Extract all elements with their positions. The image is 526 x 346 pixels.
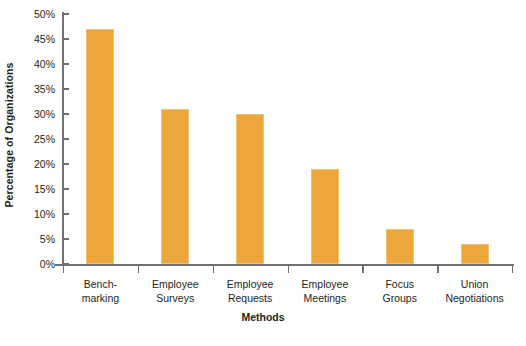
y-axis-tick-label: 20% xyxy=(21,158,55,170)
bar xyxy=(161,109,189,264)
x-axis-category-label: EmployeeSurveys xyxy=(138,278,213,305)
x-axis-category-label-line: Bench- xyxy=(63,278,138,292)
y-axis-tick-label: 15% xyxy=(21,183,55,195)
x-axis-tick-mark xyxy=(213,266,214,273)
bar xyxy=(236,114,264,264)
y-axis-title: Percentage of Organizations xyxy=(0,0,18,270)
y-axis-tick-label: 40% xyxy=(21,58,55,70)
x-axis-ticks xyxy=(0,266,526,275)
plot-area xyxy=(63,14,512,264)
x-axis-category-label: UnionNegotiations xyxy=(437,278,512,305)
x-axis-category-label: EmployeeMeetings xyxy=(288,278,363,305)
x-axis-category-label-line: Negotiations xyxy=(437,292,512,306)
x-axis-category-label-line: Surveys xyxy=(138,292,213,306)
x-axis-category-label-line: Union xyxy=(437,278,512,292)
bar xyxy=(311,169,339,264)
x-axis-tick-mark xyxy=(362,266,363,273)
x-axis-category-label-line: Meetings xyxy=(288,292,363,306)
x-axis-category-label-line: Requests xyxy=(213,292,288,306)
y-axis-tick-label: 45% xyxy=(21,33,55,45)
x-axis-category-labels: Bench-markingEmployeeSurveysEmployeeRequ… xyxy=(0,278,526,314)
x-axis-category-label-line: marking xyxy=(63,292,138,306)
x-axis-tick-mark xyxy=(437,266,438,273)
y-axis-tick-label: 30% xyxy=(21,108,55,120)
y-axis-tick-label: 10% xyxy=(21,208,55,220)
x-axis-category-label-line: Focus xyxy=(362,278,437,292)
bar-chart: Percentage of Organizations 0%5%10%15%20… xyxy=(0,0,526,346)
x-axis-category-label: FocusGroups xyxy=(362,278,437,305)
x-axis-category-label-line: Employee xyxy=(138,278,213,292)
x-axis-category-label-line: Groups xyxy=(362,292,437,306)
x-axis-category-label: EmployeeRequests xyxy=(213,278,288,305)
x-axis-tick-mark xyxy=(512,266,513,273)
x-axis-tick-mark xyxy=(63,266,64,273)
x-axis-title: Methods xyxy=(0,311,526,323)
bar xyxy=(461,244,489,264)
x-axis-tick-mark xyxy=(288,266,289,273)
y-axis-tick-label: 50% xyxy=(21,8,55,20)
y-axis-tick-labels: 0%5%10%15%20%25%30%35%40%45%50% xyxy=(21,14,55,264)
x-axis-category-label-line: Employee xyxy=(288,278,363,292)
y-axis-tick-label: 35% xyxy=(21,83,55,95)
y-axis-tick-label: 5% xyxy=(21,233,55,245)
x-axis-category-label: Bench-marking xyxy=(63,278,138,305)
bar xyxy=(386,229,414,264)
x-axis-category-label-line: Employee xyxy=(213,278,288,292)
x-axis-tick-mark xyxy=(138,266,139,273)
y-axis-tick-label: 25% xyxy=(21,133,55,145)
y-axis-title-label: Percentage of Organizations xyxy=(3,62,15,207)
bar xyxy=(86,29,114,264)
